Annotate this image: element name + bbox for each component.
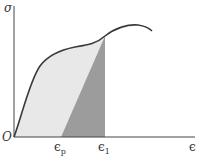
epsilon-axis-label: ϵ: [189, 141, 196, 153]
sigma-axis-label: σ: [4, 2, 12, 14]
stress-strain-diagram: [0, 0, 205, 157]
origin-label: O: [2, 131, 12, 143]
epsilon-p-label: ϵp: [54, 141, 66, 156]
epsilon-1-label: ϵ1: [98, 141, 110, 156]
